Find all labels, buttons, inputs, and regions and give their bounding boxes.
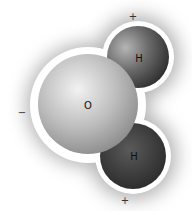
positive-charge-top: + bbox=[129, 12, 137, 22]
electron-cloud-halo bbox=[0, 0, 192, 211]
hydrogen-top-label: H bbox=[135, 54, 143, 64]
water-molecule-diagram: O H H + + − bbox=[0, 0, 192, 211]
hydrogen-bottom-label: H bbox=[130, 152, 138, 162]
positive-charge-bottom: + bbox=[121, 196, 129, 206]
oxygen-label: O bbox=[84, 101, 92, 111]
negative-charge-oxygen: − bbox=[18, 108, 26, 118]
